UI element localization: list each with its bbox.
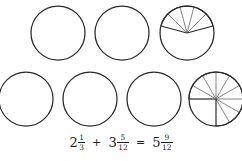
circle-outline	[31, 6, 85, 60]
term-2-denominator: 12	[117, 144, 129, 152]
term-2-whole: 3	[108, 135, 116, 150]
circle-outline	[95, 6, 149, 60]
equation-term-result: 5912	[152, 134, 172, 152]
figure-canvas: 213 + 3512 = 5912	[0, 0, 242, 161]
term-2-fraction: 512	[117, 134, 129, 152]
result-denominator: 12	[161, 144, 173, 152]
circle-whole-4	[61, 70, 119, 128]
circle-whole-2	[93, 4, 151, 62]
addends-row	[0, 4, 242, 66]
term-1-whole: 2	[69, 135, 77, 150]
circle-whole-5	[125, 70, 183, 128]
term-1-denominator: 3	[78, 144, 85, 152]
plus-operator: +	[92, 137, 101, 148]
circle-outline	[127, 72, 181, 126]
result-whole: 5	[152, 135, 160, 150]
term-1-fraction: 13	[78, 134, 85, 152]
sum-row	[0, 70, 242, 132]
circle-whole-3	[0, 70, 55, 128]
circle-outline	[63, 72, 117, 126]
equation-term-2: 3512	[108, 134, 128, 152]
equals-operator: =	[136, 137, 145, 148]
result-fraction: 912	[161, 134, 173, 152]
term-2-numerator: 5	[117, 134, 129, 142]
circle-outline	[0, 72, 53, 126]
result-numerator: 9	[161, 134, 173, 142]
circle-partial-5-12	[158, 4, 216, 62]
circle-whole-1	[29, 4, 87, 62]
term-1-numerator: 1	[78, 134, 85, 142]
equation-term-1: 213	[69, 134, 85, 152]
equation: 213 + 3512 = 5912	[0, 134, 242, 152]
circle-partial-9-12	[187, 70, 242, 128]
